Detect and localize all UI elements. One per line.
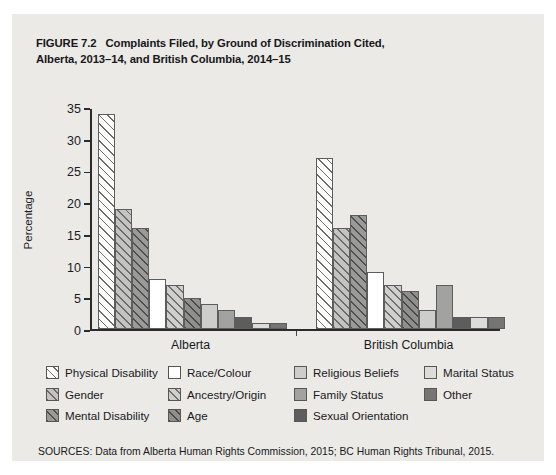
y-axis-tick — [84, 267, 90, 269]
y-axis-tick-label: 5 — [74, 292, 81, 306]
legend-item: Marital Status — [424, 366, 514, 379]
chart-legend: Physical DisabilityRace/ColourReligious … — [46, 366, 524, 431]
bar — [166, 285, 183, 329]
legend-item: Other — [424, 388, 472, 401]
legend-label: Mental Disability — [65, 409, 149, 422]
legend-swatch — [294, 388, 307, 401]
y-axis-tick-label: 0 — [74, 324, 81, 338]
bar-chart-plot: Percentage 05101520253035 AlbertaBritish… — [90, 109, 500, 331]
legend-swatch — [168, 388, 181, 401]
y-axis-tick-label: 25 — [67, 165, 81, 179]
x-axis-line — [90, 329, 500, 331]
legend-label: Marital Status — [443, 366, 514, 379]
legend-row: Physical DisabilityRace/ColourReligious … — [46, 366, 524, 388]
figure-title-line2: Alberta, 2013–14, and British Columbia, … — [36, 53, 291, 65]
y-axis-tick — [84, 140, 90, 142]
legend-label: Race/Colour — [187, 366, 251, 379]
legend-label: Family Status — [313, 388, 383, 401]
legend-swatch — [424, 388, 437, 401]
legend-item: Religious Beliefs — [294, 366, 399, 379]
legend-label: Age — [187, 409, 208, 422]
bar — [350, 215, 367, 329]
y-axis-tick-label: 20 — [67, 197, 81, 211]
x-axis-group-label: Alberta — [171, 338, 210, 352]
y-axis-tick — [84, 203, 90, 205]
legend-swatch — [46, 366, 59, 379]
legend-swatch — [424, 366, 437, 379]
legend-item: Gender — [46, 388, 104, 401]
y-axis-tick-label: 10 — [67, 261, 81, 275]
x-axis-group-label: British Columbia — [364, 338, 454, 352]
legend-item: Ancestry/Origin — [168, 388, 266, 401]
legend-item: Race/Colour — [168, 366, 251, 379]
bar — [419, 310, 436, 329]
bar — [218, 310, 235, 329]
bars-container — [92, 109, 500, 329]
y-axis-tick — [84, 330, 90, 332]
legend-item: Sexual Orientation — [294, 409, 408, 422]
figure-panel: FIGURE 7.2Complaints Filed, by Ground of… — [12, 14, 544, 461]
y-axis-tick — [84, 298, 90, 300]
legend-label: Physical Disability — [65, 366, 158, 379]
figure-number: FIGURE 7.2 — [36, 37, 97, 49]
legend-label: Religious Beliefs — [313, 366, 399, 379]
y-axis-tick-label: 15 — [67, 229, 81, 243]
legend-swatch — [168, 409, 181, 422]
bar — [252, 323, 269, 329]
legend-label: Ancestry/Origin — [187, 388, 266, 401]
legend-item: Physical Disability — [46, 366, 158, 379]
bar — [115, 209, 132, 330]
legend-swatch — [294, 366, 307, 379]
legend-label: Gender — [65, 388, 104, 401]
bar — [201, 304, 218, 329]
bar — [184, 298, 201, 330]
legend-swatch — [294, 409, 307, 422]
legend-item: Mental Disability — [46, 409, 149, 422]
bar — [235, 317, 252, 330]
bar — [270, 323, 287, 329]
legend-swatch — [46, 409, 59, 422]
y-axis-tick-label: 35 — [67, 102, 81, 116]
legend-item: Age — [168, 409, 208, 422]
bar — [333, 228, 350, 329]
bar — [402, 291, 419, 329]
y-axis-title: Percentage — [22, 191, 34, 250]
bar — [132, 228, 149, 329]
legend-label: Sexual Orientation — [313, 409, 408, 422]
bar — [453, 317, 470, 330]
legend-swatch — [46, 388, 59, 401]
bar — [316, 158, 333, 329]
y-axis-tick — [84, 108, 90, 110]
bar — [149, 279, 166, 330]
sources-note: SOURCES: Data from Alberta Human Rights … — [38, 446, 494, 457]
legend-item: Family Status — [294, 388, 383, 401]
legend-swatch — [168, 366, 181, 379]
bar — [436, 285, 453, 329]
bar — [470, 317, 487, 330]
figure-title-line1: Complaints Filed, by Ground of Discrimin… — [106, 37, 385, 49]
legend-row: Mental DisabilityAgeSexual Orientation — [46, 409, 524, 431]
legend-label: Other — [443, 388, 472, 401]
y-axis-tick — [84, 172, 90, 174]
legend-row: GenderAncestry/OriginFamily StatusOther — [46, 388, 524, 410]
bar — [488, 317, 505, 330]
bar — [367, 272, 384, 329]
bar — [98, 114, 115, 330]
x-axis-separator-tick — [296, 331, 297, 336]
bar — [384, 285, 401, 329]
figure-title: FIGURE 7.2Complaints Filed, by Ground of… — [36, 36, 506, 67]
y-axis-tick — [84, 235, 90, 237]
y-axis-tick-label: 30 — [67, 134, 81, 148]
